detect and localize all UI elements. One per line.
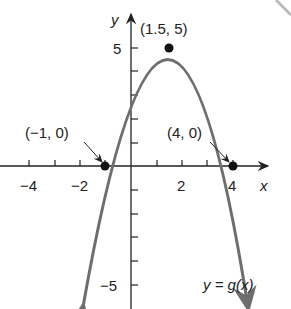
point-root-right <box>229 162 238 171</box>
graph: −4 −2 2 4 5 −5 x y (1.5, 5) (−1, 0) (4, … <box>0 0 291 309</box>
vertex-label: (1.5, 5) <box>140 20 188 37</box>
point-vertex <box>165 44 174 53</box>
root-right-label: (4, 0) <box>167 124 202 141</box>
x-axis-label: x <box>259 177 268 194</box>
corner-mark <box>276 0 291 15</box>
y-axis-label: y <box>110 11 120 28</box>
function-label: y = g(x) <box>202 276 253 293</box>
root-left-label: (−1, 0) <box>25 124 69 141</box>
x-tick-label: 2 <box>177 177 185 194</box>
parabola-curve <box>83 60 248 308</box>
y-tick-label: −5 <box>100 277 117 294</box>
leader-arrow-left <box>84 142 102 162</box>
x-tick-label: 4 <box>228 177 236 194</box>
point-root-left <box>101 162 110 171</box>
x-tick-label: −4 <box>20 177 37 194</box>
y-tick-label: 5 <box>113 40 121 57</box>
x-tick-label: −2 <box>71 177 88 194</box>
